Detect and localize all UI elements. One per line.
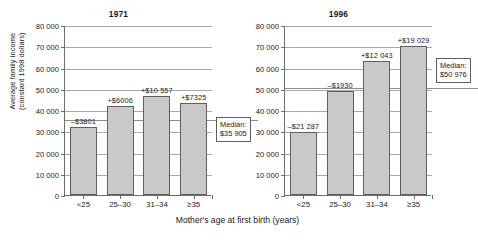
y-axis-tick xyxy=(281,175,285,176)
y-tick-label: 80 000 xyxy=(15,22,59,31)
x-axis-tick xyxy=(340,195,341,199)
x-axis-tick xyxy=(194,195,195,199)
y-axis-tick xyxy=(61,132,65,133)
y-tick-label: 40 000 xyxy=(235,107,279,116)
x-tick-label: <25 xyxy=(297,200,310,209)
x-axis-tick xyxy=(212,195,213,199)
bar-value-label: +$10 557 xyxy=(141,86,173,95)
bar-value-label: –$21 287 xyxy=(288,122,320,131)
bar[interactable] xyxy=(107,106,134,195)
y-tick-label: 80 000 xyxy=(235,22,279,31)
x-tick-label: 25–30 xyxy=(329,200,351,209)
y-tick-label: 40 000 xyxy=(15,107,59,116)
y-axis-tick xyxy=(281,154,285,155)
bar-value-label: +$7325 xyxy=(181,93,206,102)
panel-1971: 1971 <25 25–30 31–34 ≥35 010 00020 00030… xyxy=(26,0,238,242)
y-tick-label: 10 000 xyxy=(235,170,279,179)
x-axis-tick xyxy=(432,195,433,199)
x-tick-label: ≥35 xyxy=(187,200,200,209)
y-axis-tick xyxy=(61,47,65,48)
y-tick-label: 70 000 xyxy=(235,43,279,52)
y-axis-tick xyxy=(61,175,65,176)
bar[interactable] xyxy=(290,132,317,195)
y-tick-label: 0 xyxy=(235,192,279,201)
bar[interactable] xyxy=(327,91,354,195)
y-axis-tick xyxy=(281,47,285,48)
median-callout-value: $50 976 xyxy=(440,70,467,79)
bar-value-label: –$1930 xyxy=(327,81,352,90)
x-axis-tick xyxy=(157,195,158,199)
y-axis-tick xyxy=(281,132,285,133)
x-tick-label: 31–34 xyxy=(146,200,168,209)
y-tick-label: 60 000 xyxy=(15,64,59,73)
y-tick-label: 0 xyxy=(15,192,59,201)
bar[interactable] xyxy=(70,127,97,195)
y-axis-tick xyxy=(281,196,285,197)
plot-area-1996: <25 25–30 31–34 ≥35 010 00020 00030 0004… xyxy=(284,26,431,196)
y-tick-label: 50 000 xyxy=(15,85,59,94)
y-tick-label: 70 000 xyxy=(15,43,59,52)
y-axis-tick xyxy=(61,154,65,155)
x-axis-tick xyxy=(83,195,84,199)
bar-value-label: +$12 043 xyxy=(361,51,393,60)
bar[interactable] xyxy=(143,96,170,195)
y-axis-tick xyxy=(281,69,285,70)
panel-title-1996: 1996 xyxy=(246,9,431,19)
y-axis-tick xyxy=(61,196,65,197)
median-callout-label: Median: xyxy=(440,61,467,70)
grid-line xyxy=(65,47,212,48)
y-tick-label: 20 000 xyxy=(235,149,279,158)
bar[interactable] xyxy=(363,61,390,195)
y-axis-tick xyxy=(281,26,285,27)
x-axis-tick xyxy=(414,195,415,199)
y-axis-tick xyxy=(281,111,285,112)
x-axis-tick xyxy=(120,195,121,199)
y-axis-tick xyxy=(61,26,65,27)
x-tick-label: ≥35 xyxy=(407,200,420,209)
y-axis-tick xyxy=(61,90,65,91)
x-tick-label: 25–30 xyxy=(109,200,131,209)
x-axis-title: Mother's age at first birth (years) xyxy=(0,215,475,225)
plot-area-1971: <25 25–30 31–34 ≥35 010 00020 00030 0004… xyxy=(64,26,211,196)
x-tick-label: 31–34 xyxy=(366,200,388,209)
y-tick-label: 20 000 xyxy=(15,149,59,158)
y-axis-tick xyxy=(61,69,65,70)
bar-value-label: –$3801 xyxy=(71,117,96,126)
panel-title-1971: 1971 xyxy=(26,9,211,19)
y-tick-label: 50 000 xyxy=(235,85,279,94)
panel-1996: 1996 <25 25–30 31–34 ≥35 010 00020 00030… xyxy=(246,0,458,242)
x-tick-label: <25 xyxy=(77,200,90,209)
y-tick-label: 10 000 xyxy=(15,170,59,179)
x-axis-tick xyxy=(377,195,378,199)
grid-line xyxy=(65,69,212,70)
grid-line xyxy=(65,90,212,91)
bar[interactable] xyxy=(400,46,427,195)
y-tick-label: 60 000 xyxy=(235,64,279,73)
x-axis-tick xyxy=(303,195,304,199)
y-tick-label: 30 000 xyxy=(15,128,59,137)
median-callout-1996: Median: $50 976 xyxy=(436,58,471,83)
y-axis-tick xyxy=(61,111,65,112)
grid-line xyxy=(65,26,212,27)
bar-value-label: +$6006 xyxy=(107,96,132,105)
grid-line xyxy=(285,26,432,27)
y-axis-tick xyxy=(281,90,285,91)
bar[interactable] xyxy=(180,103,207,195)
bar-value-label: +$19 029 xyxy=(398,36,430,45)
y-tick-label: 30 000 xyxy=(235,128,279,137)
